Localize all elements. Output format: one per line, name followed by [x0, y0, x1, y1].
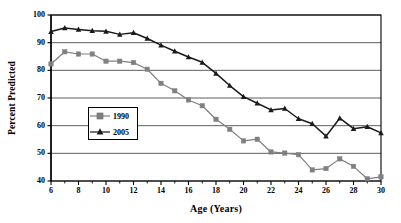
y-tick-label: 50 — [23, 148, 45, 157]
data-point-1990 — [104, 59, 108, 63]
legend-label-1990: 1990 — [113, 112, 129, 121]
legend-item-2005: 2005 — [89, 124, 137, 140]
x-tick-label: 30 — [371, 186, 391, 195]
data-point-1990 — [324, 166, 328, 170]
data-point-2005 — [337, 115, 343, 120]
y-tick-label: 70 — [23, 93, 45, 102]
data-point-1990 — [200, 104, 204, 108]
data-point-1990 — [131, 60, 135, 64]
x-tick-label: 16 — [179, 186, 199, 195]
data-point-1990 — [76, 52, 80, 56]
data-point-1990 — [296, 153, 300, 157]
y-axis-title-text: Percent Predicted — [7, 61, 17, 135]
y-tick-label: 80 — [23, 65, 45, 74]
legend-swatch-1990 — [89, 109, 111, 123]
data-point-1990 — [351, 164, 355, 168]
data-point-1990 — [338, 157, 342, 161]
x-tick-label: 6 — [41, 186, 61, 195]
x-tick-label: 14 — [151, 186, 171, 195]
x-tick-label: 24 — [289, 186, 309, 195]
chart-container: Percent Predicted Age (Years) 1990 2005 … — [0, 0, 401, 223]
x-tick-label: 10 — [96, 186, 116, 195]
data-point-1990 — [379, 175, 383, 179]
data-point-1990 — [173, 89, 177, 93]
y-tick-label: 100 — [23, 10, 45, 19]
data-point-1990 — [49, 62, 53, 66]
x-tick-label: 28 — [344, 186, 364, 195]
data-point-1990 — [241, 139, 245, 143]
data-point-1990 — [145, 67, 149, 71]
legend-label-2005: 2005 — [113, 128, 129, 137]
data-point-1990 — [214, 117, 218, 121]
legend-item-1990: 1990 — [89, 108, 137, 124]
y-tick-label: 40 — [23, 176, 45, 185]
data-point-1990 — [283, 151, 287, 155]
legend-swatch-2005 — [89, 125, 111, 139]
data-point-1990 — [90, 52, 94, 56]
y-tick-label: 90 — [23, 38, 45, 47]
data-point-1990 — [63, 50, 67, 54]
y-axis-title: Percent Predicted — [0, 0, 24, 195]
data-point-1990 — [186, 98, 190, 102]
x-tick-label: 20 — [234, 186, 254, 195]
x-tick-label: 26 — [316, 186, 336, 195]
data-point-1990 — [118, 59, 122, 63]
x-tick-label: 18 — [206, 186, 226, 195]
x-axis-title-text: Age (Years) — [190, 203, 242, 214]
data-point-1990 — [310, 168, 314, 172]
chart-legend: 1990 2005 — [88, 107, 138, 140]
x-tick-label: 12 — [124, 186, 144, 195]
x-axis-title: Age (Years) — [51, 198, 381, 216]
data-point-1990 — [228, 127, 232, 131]
data-point-1990 — [365, 177, 369, 181]
data-point-1990 — [269, 150, 273, 154]
data-point-1990 — [255, 137, 259, 141]
data-point-1990 — [159, 81, 163, 85]
x-tick-label: 8 — [69, 186, 89, 195]
x-tick-label: 22 — [261, 186, 281, 195]
y-tick-label: 60 — [23, 121, 45, 130]
